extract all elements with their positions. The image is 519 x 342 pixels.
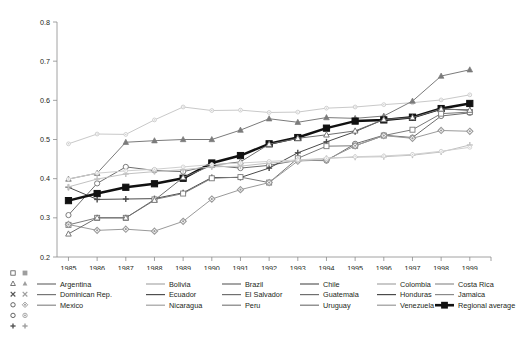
y-tick-label: 0.6	[40, 96, 50, 105]
legend-item-label: El Salvador	[245, 290, 283, 299]
legend-item-costa-rica[interactable]: Costa Rica	[435, 280, 495, 289]
y-tick-label: 0.2	[40, 253, 50, 262]
legend-swatch-square-icon	[441, 302, 448, 309]
legend-item-bolivia[interactable]: Bolivia	[146, 280, 191, 289]
legend-item-label: Chile	[323, 280, 340, 289]
legend-item-mexico[interactable]: Mexico	[37, 301, 83, 310]
legend-decoration-plus-dark-icon	[10, 323, 15, 328]
y-tick-label: 0.4	[40, 174, 50, 183]
legend-item-label: Peru	[245, 301, 260, 310]
legend-item-label: Jamaica	[458, 290, 486, 299]
legend-item-ecuador[interactable]: Ecuador	[146, 290, 197, 299]
legend-item-label: Honduras	[400, 290, 432, 299]
legend-item-guatemala[interactable]: Guatemala	[300, 290, 360, 299]
chart-page: 0.20.30.40.50.60.70.81985198619871988198…	[0, 0, 519, 342]
y-tick-label: 0.5	[40, 135, 50, 144]
legend-item-uruguay[interactable]: Uruguay	[300, 301, 351, 310]
legend-item-label: Dominican Rep.	[60, 290, 112, 299]
legend-item-label: Uruguay	[323, 301, 351, 310]
y-tick-label: 0.7	[40, 57, 50, 66]
legend-decoration-circle-dot-icon	[23, 313, 27, 317]
legend-decoration-plus-light-icon	[22, 323, 27, 328]
legend-item-label: Argentina	[60, 280, 92, 289]
legend-item-el-salvador[interactable]: El Salvador	[222, 290, 283, 299]
chart-plot-area: 0.20.30.40.50.60.70.81985198619871988198…	[0, 0, 519, 270]
y-tick-label: 0.8	[40, 18, 50, 27]
legend-decoration-triangle-filled-icon	[23, 281, 28, 286]
line-chart: 0.20.30.40.50.60.70.81985198619871988198…	[0, 0, 519, 270]
legend-decoration-x-light-icon	[23, 292, 28, 297]
legend-decoration-square-open-icon	[11, 271, 15, 275]
chart-legend: ArgentinaDominican Rep.MexicoBoliviaEcua…	[0, 268, 519, 342]
legend-decoration-circle-open-icon	[11, 313, 15, 317]
legend-item-label: Brazil	[245, 280, 264, 289]
legend-item-regional-average[interactable]: Regional average	[435, 301, 515, 310]
legend-item-jamaica[interactable]: Jamaica	[435, 290, 486, 299]
legend-item-colombia[interactable]: Colombia	[377, 280, 432, 289]
legend-item-label: Guatemala	[323, 290, 360, 299]
legend-item-label: Costa Rica	[458, 280, 495, 289]
legend-item-nicaragua[interactable]: Nicaragua	[146, 301, 203, 310]
legend-decoration-x-dark-icon	[11, 292, 16, 297]
legend-decoration-triangle-open-icon	[11, 281, 16, 286]
legend-item-label: Colombia	[400, 280, 432, 289]
legend-item-label: Ecuador	[169, 290, 197, 299]
legend-svg: ArgentinaDominican Rep.MexicoBoliviaEcua…	[0, 268, 519, 342]
legend-item-argentina[interactable]: Argentina	[37, 280, 92, 289]
legend-item-honduras[interactable]: Honduras	[377, 290, 432, 299]
legend-item-dominican-rep[interactable]: Dominican Rep.	[37, 290, 112, 299]
legend-decoration-diamond-icon	[22, 302, 27, 307]
legend-item-label: Regional average	[458, 301, 515, 310]
legend-item-peru[interactable]: Peru	[222, 301, 260, 310]
legend-decoration-square-filled-icon	[23, 271, 28, 276]
legend-item-chile[interactable]: Chile	[300, 280, 340, 289]
legend-item-venezuela[interactable]: Venezuela	[377, 301, 435, 310]
y-tick-label: 0.3	[40, 213, 50, 222]
chart-series-s-lightgray2	[67, 145, 472, 181]
legend-item-label: Venezuela	[400, 301, 435, 310]
legend-decoration-circle-open-icon	[11, 303, 15, 307]
legend-item-label: Mexico	[60, 301, 83, 310]
legend-item-label: Bolivia	[169, 280, 191, 289]
legend-item-label: Nicaragua	[169, 301, 203, 310]
legend-item-brazil[interactable]: Brazil	[222, 280, 264, 289]
